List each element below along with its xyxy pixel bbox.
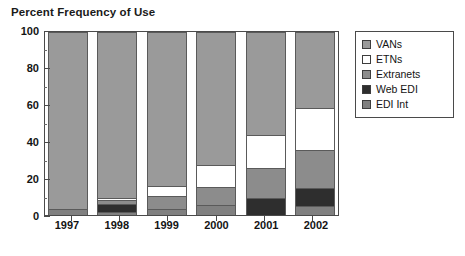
bar-segment-vans [197, 32, 235, 165]
x-axis-tick-2001 [264, 216, 265, 221]
legend-swatch-icon [362, 70, 371, 79]
y-axis-tick-80 [44, 68, 50, 69]
plot-frame [44, 31, 339, 216]
bar-segment-edi-int [49, 209, 87, 215]
bar-segment-extranets [197, 187, 235, 205]
bar-column-2002[interactable] [295, 32, 335, 215]
bar-segment-web-edi [98, 204, 136, 212]
legend-label: ETNs [376, 53, 402, 65]
y-axis-label-0: 0 [33, 210, 39, 222]
x-axis-tick-2002 [312, 216, 313, 221]
legend-swatch-icon [362, 55, 371, 64]
legend-swatch-icon [362, 100, 371, 109]
bar-stack [246, 32, 286, 215]
x-axis-tick-2000 [216, 216, 217, 221]
bar-segment-extranets [247, 168, 285, 197]
y-axis-label-40: 40 [27, 136, 39, 148]
y-axis-minor-tick-90 [44, 50, 47, 51]
x-axis-label-1997: 1997 [47, 219, 87, 231]
legend-label: VANs [376, 38, 402, 50]
bar-segment-vans [98, 32, 136, 198]
bar-stack [147, 32, 187, 215]
x-axis-tick-1998 [119, 216, 120, 221]
plot-area [45, 32, 338, 215]
y-axis-label-20: 20 [27, 173, 39, 185]
bar-stack [295, 32, 335, 215]
y-axis-minor-tick-50 [44, 124, 47, 125]
y-axis-tick-0 [44, 216, 50, 217]
legend-swatch-icon [362, 85, 371, 94]
legend-label: EDI Int [376, 98, 408, 110]
y-axis-tick-100 [44, 31, 50, 32]
x-axis-tick-1999 [167, 216, 168, 221]
bar-segment-etns [247, 135, 285, 168]
bar-stack [97, 32, 137, 215]
chart-container: Percent Frequency of Use 020406080100 19… [0, 0, 465, 256]
bar-segment-edi-int [296, 206, 334, 215]
y-axis-label-100: 100 [21, 25, 39, 37]
bar-segment-vans [247, 32, 285, 135]
bar-segment-etns [296, 108, 334, 150]
y-axis-minor-tick-10 [44, 198, 47, 199]
bar-stack [48, 32, 88, 215]
bar-segment-vans [49, 32, 87, 209]
legend-label: Extranets [376, 68, 420, 80]
bar-segment-vans [148, 32, 186, 186]
bar-segment-etns [148, 186, 186, 196]
y-axis-label-60: 60 [27, 99, 39, 111]
bar-segment-web-edi [296, 188, 334, 205]
legend-item-edi-int[interactable]: EDI Int [362, 97, 447, 111]
legend-item-web-edi[interactable]: Web EDI [362, 82, 447, 96]
bar-column-1999[interactable] [147, 32, 187, 215]
y-axis-minor-tick-70 [44, 87, 47, 88]
bar-segment-edi-int [148, 209, 186, 215]
legend-item-extranets[interactable]: Extranets [362, 67, 447, 81]
legend-item-etns[interactable]: ETNs [362, 52, 447, 66]
y-axis-label-80: 80 [27, 62, 39, 74]
bar-stack [196, 32, 236, 215]
y-axis: 020406080100 [0, 31, 39, 216]
x-axis-label-2002: 2002 [296, 219, 336, 231]
legend-swatch-icon [362, 40, 371, 49]
x-axis: 199719981999200020012002 [44, 219, 339, 239]
bar-segment-web-edi [247, 198, 285, 215]
y-axis-minor-tick-30 [44, 161, 47, 162]
bar-segment-edi-int [197, 205, 235, 215]
bar-segment-etns [197, 165, 235, 187]
y-axis-tick-20 [44, 179, 50, 180]
y-axis-tick-60 [44, 105, 50, 106]
chart-legend: VANsETNsExtranetsWeb EDIEDI Int [355, 31, 454, 118]
x-axis-label-2001: 2001 [246, 219, 286, 231]
x-axis-label-1998: 1998 [97, 219, 137, 231]
x-axis-tick-1997 [71, 216, 72, 221]
bar-column-1998[interactable] [97, 32, 137, 215]
legend-label: Web EDI [376, 83, 418, 95]
bar-column-2000[interactable] [196, 32, 236, 215]
bar-segment-vans [296, 32, 334, 108]
bar-segment-edi-int [98, 212, 136, 215]
bar-segment-extranets [148, 196, 186, 209]
chart-title: Percent Frequency of Use [11, 6, 155, 18]
bar-segment-extranets [296, 150, 334, 188]
bar-column-2001[interactable] [246, 32, 286, 215]
y-axis-tick-40 [44, 142, 50, 143]
bar-column-1997[interactable] [48, 32, 88, 215]
legend-item-vans[interactable]: VANs [362, 37, 447, 51]
